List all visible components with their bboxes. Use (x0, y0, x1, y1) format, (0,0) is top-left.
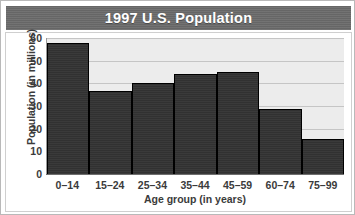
chart-title-bar: 1997 U.S. Population (5, 5, 352, 31)
x-tick-label: 60–74 (259, 177, 302, 193)
bar (302, 139, 344, 174)
chart-figure: 1997 U.S. Population Population (in mill… (0, 0, 355, 215)
x-axis-tick-labels: 0–14 15–24 25–34 35–44 45–59 60–74 75–99 (46, 177, 344, 193)
y-tick-label: 50 (30, 55, 42, 66)
bar (132, 83, 174, 174)
y-tick-label: 0 (36, 169, 42, 180)
x-tick-label: 75–99 (301, 177, 344, 193)
x-tick-label: 35–44 (174, 177, 217, 193)
y-tick-label: 20 (30, 123, 42, 134)
x-tick-label: 0–14 (46, 177, 89, 193)
y-tick-label: 40 (30, 78, 42, 89)
bar (89, 91, 131, 174)
y-tick-label: 10 (30, 146, 42, 157)
x-axis-label: Age group (in years) (46, 193, 344, 205)
bar (217, 72, 259, 174)
chart-panel: Population (in millions) 60 50 40 30 20 … (5, 32, 352, 212)
bar (259, 109, 301, 174)
bar (47, 43, 89, 174)
chart-title: 1997 U.S. Population (105, 11, 252, 26)
y-tick-label: 60 (30, 33, 42, 44)
x-axis-line (46, 174, 344, 175)
x-tick-label: 15–24 (89, 177, 132, 193)
plot-area (46, 38, 344, 174)
bar-series (47, 38, 344, 174)
y-axis-tick-labels: 60 50 40 30 20 10 0 (20, 33, 42, 213)
y-tick-label: 30 (30, 101, 42, 112)
bar (174, 74, 216, 174)
x-tick-label: 45–59 (216, 177, 259, 193)
x-tick-label: 25–34 (131, 177, 174, 193)
